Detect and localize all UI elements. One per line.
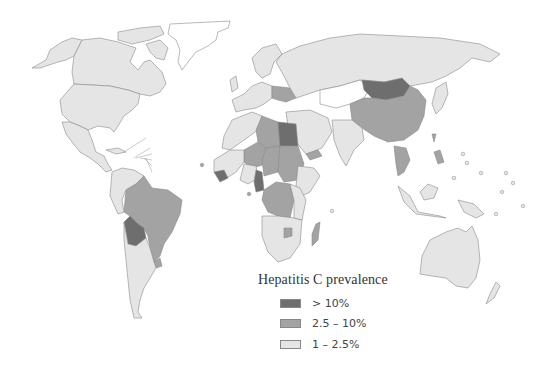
island-marker <box>330 209 334 213</box>
legend-swatch-high <box>280 299 301 308</box>
region-cuba <box>106 148 126 154</box>
legend-label-high: > 10% <box>312 297 349 310</box>
region-philippines <box>434 150 444 164</box>
island-marker <box>500 190 504 194</box>
region-cameroon <box>254 170 264 192</box>
legend: Hepatitis C prevalence > 10% 2.5 – 10% 1… <box>280 272 480 360</box>
island-marker <box>511 181 515 185</box>
region-india <box>332 120 364 166</box>
island-marker <box>504 171 508 175</box>
legend-label-medium: 2.5 – 10% <box>312 317 366 330</box>
region-baffin <box>146 40 168 60</box>
region-greenland <box>168 21 230 70</box>
legend-item-medium: 2.5 – 10% <box>280 319 480 329</box>
region-new-guinea <box>458 200 484 218</box>
island-marker <box>461 152 465 156</box>
legend-swatch-medium <box>280 319 301 328</box>
region-zimbabwe <box>284 228 292 238</box>
region-southeast-asia <box>394 146 410 176</box>
island-marker <box>465 161 469 165</box>
region-japan <box>432 82 448 114</box>
region-madagascar <box>312 222 320 246</box>
region-taiwan <box>432 134 436 142</box>
legend-title: Hepatitis C prevalence <box>258 272 480 288</box>
region-new-zealand <box>486 282 500 304</box>
island-marker <box>247 192 251 196</box>
region-egypt <box>278 122 298 146</box>
island-marker <box>452 176 456 180</box>
region-southern-africa <box>262 216 302 262</box>
legend-swatch-low <box>280 340 301 349</box>
island-marker <box>200 163 204 167</box>
legend-item-low: 1 – 2.5% <box>280 339 480 349</box>
island-marker <box>494 212 498 216</box>
island-marker <box>479 171 483 175</box>
region-dr-congo <box>262 182 294 218</box>
region-borneo <box>420 184 438 200</box>
legend-label-low: 1 – 2.5% <box>312 338 359 351</box>
caribbean-callout <box>124 138 152 172</box>
legend-item-high: > 10% <box>280 298 480 308</box>
region-uk <box>230 76 238 92</box>
island-marker <box>521 204 525 208</box>
region-mexico <box>62 122 112 172</box>
